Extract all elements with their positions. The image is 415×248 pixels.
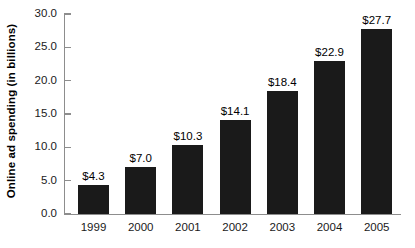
y-axis-tick-mark xyxy=(65,80,71,81)
y-axis-tick-label: 20.0 xyxy=(17,75,57,87)
bar-value-label: $10.3 xyxy=(158,131,218,143)
bar-value-label: $27.7 xyxy=(347,15,407,27)
y-axis-title-text: Online ad spending (in billions) xyxy=(5,24,17,198)
bar-chart: Online ad spending (in billions) 0.05.01… xyxy=(0,0,415,248)
y-axis-tick-mark xyxy=(65,213,71,214)
y-axis-tick-label: 30.0 xyxy=(17,8,57,20)
y-axis-tick-label: 10.0 xyxy=(17,141,57,153)
bar-value-label: $14.1 xyxy=(205,106,265,118)
bar-value-label: $22.9 xyxy=(300,47,360,59)
x-axis-tick-label: 2005 xyxy=(347,222,407,234)
bar xyxy=(172,145,203,214)
bar xyxy=(361,29,392,214)
bar-value-label: $4.3 xyxy=(64,171,124,183)
bar-value-label: $7.0 xyxy=(111,153,171,165)
y-axis-tick-label: 15.0 xyxy=(17,108,57,120)
bar xyxy=(267,91,298,214)
y-axis-tick-mark xyxy=(65,147,71,148)
bar xyxy=(125,167,156,214)
y-axis-tick-label: 0.0 xyxy=(17,208,57,220)
y-axis-tick-label: 5.0 xyxy=(17,175,57,187)
bar xyxy=(314,61,345,214)
bar xyxy=(220,120,251,214)
bar-value-label: $18.4 xyxy=(252,77,312,89)
bar xyxy=(78,185,109,214)
y-axis-tick-label: 25.0 xyxy=(17,41,57,53)
y-axis-tick-mark xyxy=(65,13,71,14)
y-axis-tick-mark xyxy=(65,47,71,48)
y-axis-tick-mark xyxy=(65,113,71,114)
